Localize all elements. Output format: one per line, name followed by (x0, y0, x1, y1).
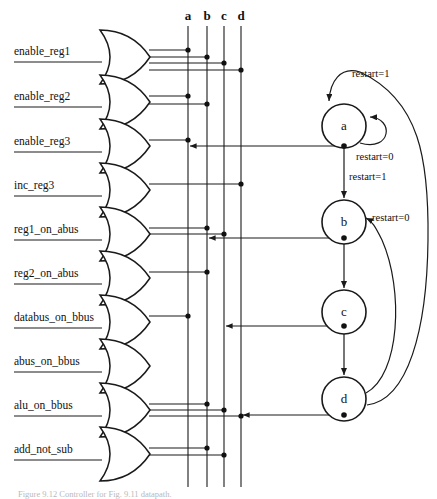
input-label-add_not_sub: add_not_sub (14, 443, 73, 455)
controller-figure: a b c d enable_reg1 enable_reg2 (0, 0, 437, 499)
input-label-alu_on_bbus: alu_on_bbus (14, 399, 73, 411)
junction-enable_reg2-a (185, 93, 190, 98)
state-tap-b (341, 235, 347, 241)
state-node-c: c (322, 290, 366, 334)
state-name-d: d (341, 391, 348, 406)
or-gate-abus_on_bbus: abus_on_bbus (14, 339, 150, 393)
junction-add_not_sub-c (221, 452, 226, 457)
input-label-reg2_on_abus: reg2_on_abus (14, 267, 79, 280)
input-label-enable_reg1: enable_reg1 (14, 45, 70, 58)
column-label-a: a (185, 8, 192, 23)
junction-reg1_on_abus-b (204, 225, 209, 230)
column-label-c: c (221, 8, 227, 23)
input-label-enable_reg2: enable_reg2 (14, 90, 70, 103)
state-output-wires (190, 146, 344, 415)
junction-reg1_on_abus-c (221, 231, 226, 236)
transition-label-a-to-b: restart=1 (349, 171, 386, 182)
or-gate-alu_on_bbus: alu_on_bbus (14, 383, 244, 437)
junction-alu_on_bbus-d (238, 413, 243, 418)
junction-add_not_sub-b (204, 445, 209, 450)
junction-reg2_on_abus-b (204, 269, 209, 274)
state-tap-a (341, 143, 347, 149)
input-label-abus_on_bbus: abus_on_bbus (14, 355, 80, 367)
input-label-databus_on_bbus: databus_on_bbus (14, 311, 94, 323)
or-gate-enable_reg1: enable_reg1 (14, 30, 244, 84)
state-tap-c (341, 323, 347, 329)
junction-alu_on_bbus-c (221, 407, 226, 412)
input-label-reg1_on_abus: reg1_on_abus (14, 223, 79, 236)
junction-enable_reg1-b (204, 54, 209, 59)
or-gate-add_not_sub: add_not_sub (14, 427, 227, 481)
column-label-d: d (237, 8, 245, 23)
transition-label-d-to-a: restart=1 (352, 68, 389, 79)
transition-label-a-to-a: restart=0 (356, 151, 393, 162)
junction-enable_reg1-d (238, 67, 243, 72)
junction-enable_reg2-b (204, 101, 209, 106)
or-gate-reg1_on_abus: reg1_on_abus (14, 207, 227, 261)
state-name-b: b (341, 214, 348, 229)
state-name-c: c (341, 304, 347, 319)
state-tap-d (341, 412, 347, 418)
column-labels: a b c d (185, 8, 246, 23)
state-node-b: b (322, 200, 366, 244)
or-gate-inc_reg3: inc_reg3 (14, 163, 244, 217)
junction-inc_reg3-d (238, 181, 243, 186)
state-name-a: a (341, 118, 347, 133)
state-node-d: d (322, 377, 366, 421)
transition-d-to-b (366, 218, 396, 393)
input-label-inc_reg3: inc_reg3 (14, 179, 54, 192)
transition-label-d-to-b: restart=0 (372, 212, 409, 223)
junction-alu_on_bbus-b (204, 401, 209, 406)
input-label-enable_reg3: enable_reg3 (14, 135, 70, 148)
junction-enable_reg1-c (221, 60, 226, 65)
junction-enable_reg3-a (185, 137, 190, 142)
figure-caption: Figure 9.12 Controller for Fig. 9.11 dat… (18, 489, 172, 499)
junction-databus_on_bbus-a (185, 313, 190, 318)
junction-enable_reg1-a (185, 47, 190, 52)
state-node-a: a (322, 104, 366, 149)
column-label-b: b (203, 8, 210, 23)
state-bus-lines (188, 26, 241, 487)
